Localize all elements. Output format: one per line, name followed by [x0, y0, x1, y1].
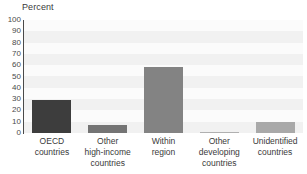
- y-axis-title: Percent: [22, 2, 54, 12]
- y-tick-label: 30: [0, 95, 21, 103]
- x-axis-label-line: Other: [80, 136, 136, 147]
- y-tick-label: 70: [0, 50, 21, 58]
- x-axis-label: Otherhigh-incomecountries: [80, 136, 136, 169]
- x-axis-label-line: countries: [247, 147, 303, 158]
- y-axis-ticks: 1009080706050403020100: [0, 0, 21, 174]
- grid-band: [24, 43, 303, 54]
- bar: [144, 67, 183, 133]
- x-axis-label: Otherdevelopingcountries: [191, 136, 247, 169]
- bar-chart: Percent 1009080706050403020100 OECDcount…: [0, 0, 307, 174]
- y-tick-label: 40: [0, 84, 21, 92]
- bar: [256, 122, 295, 133]
- y-axis-line: [23, 20, 24, 134]
- x-axis-label-line: OECD: [24, 136, 80, 147]
- x-axis-labels: OECDcountriesOtherhigh-incomecountriesWi…: [24, 136, 303, 174]
- bar: [88, 125, 127, 133]
- y-tick-label: 10: [0, 118, 21, 126]
- x-axis-label-line: Unidentified: [247, 136, 303, 147]
- x-axis-label-line: high-income: [80, 147, 136, 158]
- x-axis-label-line: developing: [191, 147, 247, 158]
- x-axis-label-line: countries: [24, 147, 80, 158]
- y-tick-label: 60: [0, 61, 21, 69]
- y-tick-label: 100: [0, 16, 21, 24]
- y-tick-label: 90: [0, 27, 21, 35]
- x-axis-label: Unidentifiedcountries: [247, 136, 303, 158]
- y-tick-label: 0: [0, 129, 21, 137]
- bar: [200, 132, 239, 133]
- plot-area: [24, 20, 303, 133]
- x-axis-label-line: countries: [80, 158, 136, 169]
- y-tick-label: 50: [0, 73, 21, 81]
- x-axis-label: Withinregion: [136, 136, 192, 158]
- x-axis-label-line: Within: [136, 136, 192, 147]
- bar: [32, 100, 71, 133]
- x-axis-label: OECDcountries: [24, 136, 80, 158]
- grid-band: [24, 20, 303, 31]
- x-axis-label-line: Other: [191, 136, 247, 147]
- x-axis-label-line: region: [136, 147, 192, 158]
- y-tick-label: 80: [0, 39, 21, 47]
- x-axis-label-line: countries: [191, 158, 247, 169]
- y-tick-label: 20: [0, 106, 21, 114]
